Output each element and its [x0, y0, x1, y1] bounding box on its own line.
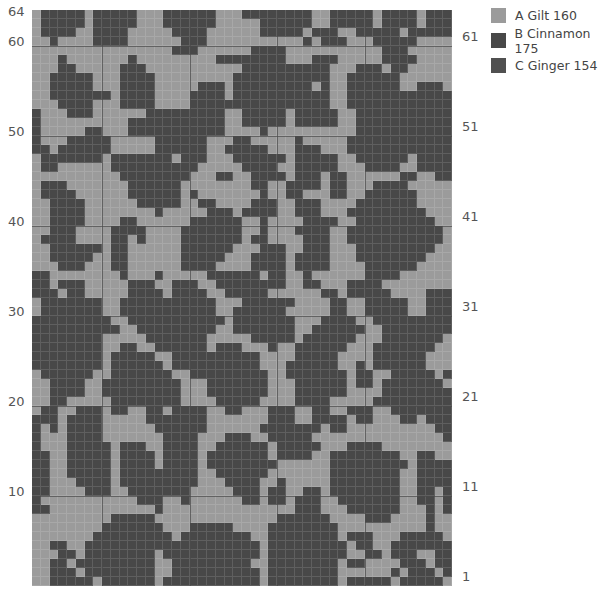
- chart-cell: [277, 343, 286, 352]
- chart-cell: [207, 388, 216, 397]
- chart-cell: [76, 19, 85, 28]
- chart-cell: [85, 406, 94, 415]
- chart-cell: [277, 145, 286, 154]
- chart-cell: [50, 64, 59, 73]
- chart-cell: [225, 496, 234, 505]
- chart-cell: [32, 406, 41, 415]
- chart-cell: [242, 226, 251, 235]
- chart-cell: [163, 397, 172, 406]
- chart-cell: [50, 559, 59, 568]
- chart-cell: [443, 352, 452, 361]
- chart-cell: [32, 415, 41, 424]
- chart-cell: [163, 235, 172, 244]
- chart-cell: [426, 451, 435, 460]
- chart-cell: [198, 415, 207, 424]
- chart-cell: [137, 307, 146, 316]
- chart-cell: [85, 415, 94, 424]
- chart-cell: [207, 325, 216, 334]
- chart-cell: [268, 100, 277, 109]
- chart-cell: [85, 559, 94, 568]
- chart-cell: [242, 577, 251, 586]
- chart-cell: [163, 289, 172, 298]
- chart-cell: [93, 406, 102, 415]
- chart-cell: [85, 271, 94, 280]
- chart-cell: [181, 145, 190, 154]
- chart-cell: [408, 523, 417, 532]
- chart-cell: [268, 415, 277, 424]
- chart-cell: [102, 118, 111, 127]
- chart-cell: [58, 181, 67, 190]
- chart-cell: [181, 190, 190, 199]
- chart-cell: [417, 388, 426, 397]
- chart-cell: [137, 451, 146, 460]
- chart-cell: [128, 406, 137, 415]
- chart-cell: [286, 325, 295, 334]
- chart-cell: [400, 487, 409, 496]
- chart-cell: [93, 163, 102, 172]
- chart-cell: [356, 127, 365, 136]
- chart-cell: [242, 136, 251, 145]
- chart-cell: [233, 388, 242, 397]
- chart-cell: [312, 199, 321, 208]
- chart-cell: [225, 541, 234, 550]
- chart-cell: [41, 262, 50, 271]
- chart-cell: [408, 568, 417, 577]
- chart-cell: [443, 154, 452, 163]
- chart-cell: [268, 37, 277, 46]
- chart-cell: [216, 73, 225, 82]
- chart-cell: [172, 163, 181, 172]
- chart-cell: [111, 37, 120, 46]
- chart-cell: [303, 262, 312, 271]
- chart-cell: [391, 199, 400, 208]
- chart-cell: [373, 100, 382, 109]
- chart-cell: [330, 208, 339, 217]
- chart-cell: [373, 469, 382, 478]
- chart-cell: [163, 568, 172, 577]
- chart-cell: [330, 37, 339, 46]
- chart-cell: [382, 145, 391, 154]
- chart-cell: [146, 487, 155, 496]
- chart-cell: [172, 460, 181, 469]
- chart-cell: [120, 172, 129, 181]
- chart-cell: [146, 559, 155, 568]
- chart-cell: [426, 316, 435, 325]
- chart-cell: [400, 91, 409, 100]
- chart-cell: [41, 505, 50, 514]
- chart-cell: [312, 559, 321, 568]
- chart-cell: [198, 478, 207, 487]
- chart-cell: [102, 37, 111, 46]
- chart-cell: [408, 244, 417, 253]
- chart-cell: [347, 262, 356, 271]
- chart-cell: [67, 469, 76, 478]
- chart-cell: [41, 199, 50, 208]
- chart-cell: [382, 37, 391, 46]
- chart-cell: [76, 217, 85, 226]
- chart-cell: [146, 514, 155, 523]
- chart-cell: [277, 244, 286, 253]
- chart-cell: [216, 244, 225, 253]
- chart-cell: [347, 415, 356, 424]
- chart-cell: [128, 442, 137, 451]
- chart-cell: [391, 136, 400, 145]
- chart-cell: [443, 370, 452, 379]
- chart-cell: [443, 550, 452, 559]
- chart-cell: [277, 136, 286, 145]
- chart-cell: [32, 460, 41, 469]
- chart-cell: [338, 91, 347, 100]
- chart-cell: [443, 226, 452, 235]
- chart-cell: [85, 388, 94, 397]
- chart-cell: [382, 442, 391, 451]
- chart-cell: [426, 388, 435, 397]
- chart-cell: [391, 64, 400, 73]
- chart-cell: [76, 145, 85, 154]
- chart-cell: [321, 19, 330, 28]
- chart-cell: [172, 262, 181, 271]
- chart-cell: [408, 280, 417, 289]
- chart-cell: [225, 379, 234, 388]
- chart-cell: [146, 10, 155, 19]
- chart-cell: [93, 280, 102, 289]
- chart-cell: [102, 514, 111, 523]
- chart-cell: [163, 46, 172, 55]
- chart-cell: [32, 145, 41, 154]
- chart-cell: [312, 244, 321, 253]
